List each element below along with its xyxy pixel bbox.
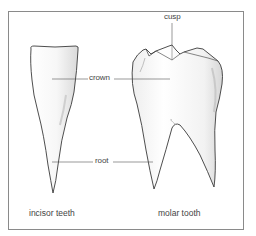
molar-tooth — [132, 45, 222, 189]
root-label: root — [95, 157, 108, 165]
crown-label: crown — [89, 74, 110, 82]
incisor-caption: incisor teeth — [29, 209, 75, 218]
incisor-tooth — [31, 46, 79, 193]
cusp-label: cusp — [164, 13, 181, 21]
teeth-illustration — [0, 0, 256, 236]
molar-caption: molar tooth — [158, 209, 201, 218]
